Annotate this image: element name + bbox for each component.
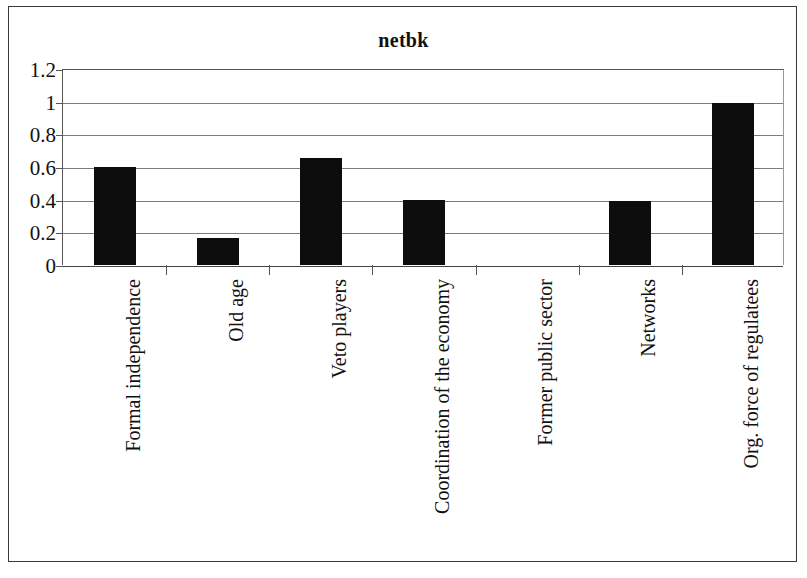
- y-axis-tick-label: 0.8: [30, 125, 56, 146]
- plot-wrapper: 1.210.80.60.40.20: [62, 69, 784, 265]
- y-axis-tick-mark: [56, 266, 63, 267]
- chart-frame: netbk 1.210.80.60.40.20 Formal independe…: [8, 6, 797, 562]
- x-axis-category-label: Networks: [638, 279, 658, 559]
- y-axis-tick-mark: [56, 70, 63, 71]
- bar: [712, 103, 754, 265]
- y-axis-tick-label: 1: [46, 92, 57, 113]
- bar: [609, 201, 651, 265]
- x-axis-tick-mark: [269, 265, 270, 275]
- x-axis-category-label: Coordination of the economy: [432, 279, 452, 559]
- gridline: [63, 103, 783, 104]
- x-axis-tick-mark: [682, 265, 683, 275]
- x-axis-tick-mark: [166, 265, 167, 275]
- y-axis-tick-label: 0: [46, 256, 57, 277]
- y-axis-tick-mark: [56, 233, 63, 234]
- x-axis-category-label: Veto players: [329, 279, 349, 559]
- x-axis-category-labels: Formal independenceOld ageVeto playersCo…: [62, 279, 784, 559]
- x-axis-category-label-text: Former public sector: [535, 279, 555, 446]
- y-axis-tick-label: 1.2: [30, 60, 56, 81]
- x-axis-category-label-text: Coordination of the economy: [432, 279, 452, 514]
- x-axis-category-label: Formal independence: [123, 279, 143, 559]
- x-axis-category-label-text: Networks: [638, 279, 658, 357]
- x-axis-tick-mark: [372, 265, 373, 275]
- gridline: [63, 135, 783, 136]
- x-axis-category-label-text: Formal independence: [123, 279, 143, 452]
- bar: [197, 238, 239, 265]
- bar: [300, 158, 342, 265]
- x-axis-category-label: Former public sector: [535, 279, 555, 559]
- x-axis-category-label-text: Old age: [226, 279, 246, 342]
- y-axis-tick-mark: [56, 103, 63, 104]
- y-axis-tick-mark: [56, 168, 63, 169]
- y-axis-tick-label: 0.2: [30, 223, 56, 244]
- y-axis-tick-mark: [56, 201, 63, 202]
- y-axis-tick-mark: [56, 135, 63, 136]
- chart-title: netbk: [9, 29, 798, 52]
- x-axis-category-label-text: Org. force of regulatees: [741, 279, 761, 469]
- y-axis-tick-label: 0.6: [30, 158, 56, 179]
- x-axis-category-label: Org. force of regulatees: [741, 279, 761, 559]
- x-axis-tick-mark: [579, 265, 580, 275]
- x-axis-category-label: Old age: [226, 279, 246, 559]
- bar: [94, 167, 136, 265]
- x-axis-category-label-text: Veto players: [329, 279, 349, 378]
- bar: [403, 200, 445, 265]
- x-axis-tick-mark: [476, 265, 477, 275]
- plot-area: 1.210.80.60.40.20: [62, 69, 784, 265]
- x-axis-tick-marks: [63, 265, 783, 275]
- gridline: [63, 168, 783, 169]
- y-axis-tick-label: 0.4: [30, 190, 56, 211]
- chart-figure: netbk 1.210.80.60.40.20 Formal independe…: [0, 0, 807, 578]
